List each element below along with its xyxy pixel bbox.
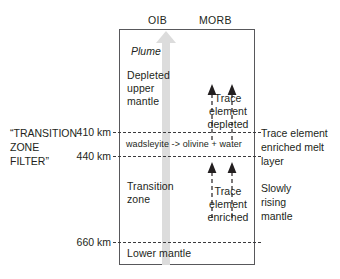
right-label-enriched-melt-layer: Trace element enriched melt layer: [261, 126, 328, 168]
discontinuity-line-660: [113, 242, 261, 243]
column-header-morb: MORB: [199, 14, 232, 26]
annotation-trace-element-depleted: Trace element depleted: [198, 92, 258, 131]
discontinuity-line-440: [113, 156, 261, 157]
transition-zone-filter-label: “TRANSITION ZONE FILTER”: [10, 126, 77, 168]
reaction-label-wadsleyite: wadsleyite -> olivine + water: [126, 139, 242, 149]
column-header-oib: OIB: [148, 14, 167, 26]
annotation-trace-element-enriched: Trace element enriched: [198, 185, 258, 224]
transition-zone-filter-diagram: OIB MORB Plume Depleted upper mantle wad…: [0, 0, 340, 279]
layer-label-transition-zone: Transition zone: [127, 180, 174, 206]
plume-label: Plume: [131, 45, 161, 57]
right-label-slowly-rising-mantle: Slowly rising mantle: [261, 181, 293, 223]
layer-label-depleted-upper-mantle: Depleted upper mantle: [127, 69, 170, 108]
layer-label-lower-mantle: Lower mantle: [127, 247, 191, 260]
depth-label-660: 660 km: [55, 236, 111, 248]
